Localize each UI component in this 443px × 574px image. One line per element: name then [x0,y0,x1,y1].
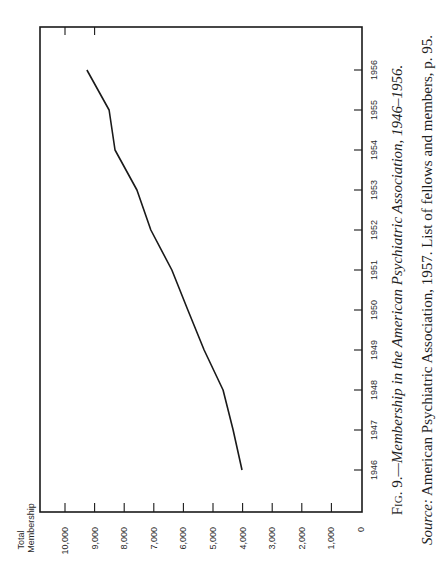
x-tick-label: 1949 [369,340,379,360]
y-tick-label: 1,000 [326,527,336,550]
figure-label: Fig. 9. [389,477,405,516]
membership-line-chart: Total Membership Fig. 9.—Membership in t… [0,0,443,574]
x-tick-label: 1947 [369,420,379,440]
x-tick-label: 1950 [369,300,379,320]
y-axis-ticks [65,27,331,512]
figure-title: —Membership in the American Psychiatric … [389,65,405,478]
plot-frame [40,27,362,512]
y-tick-label: 8,000 [119,527,129,550]
x-tick-label: 1951 [369,260,379,280]
y-tick-label: 10,000 [60,527,70,555]
membership-line [87,70,242,470]
x-tick-label: 1952 [369,220,379,240]
source-text: American Psychiatric Association, 1957. … [419,35,435,499]
y-tick-label: 6,000 [178,527,188,550]
x-axis-ticks [354,70,362,470]
x-tick-label: 1953 [369,180,379,200]
y-tick-label: 5,000 [208,527,218,550]
x-tick-label: 1954 [369,140,379,160]
y-tick-label: 3,000 [267,527,277,550]
y-tick-label: 2,000 [297,527,307,550]
x-tick-label: 1948 [369,380,379,400]
y-tick-label: 0 [356,527,366,532]
y-tick-label: 7,000 [149,527,159,550]
y-axis-title-line2: Membership [26,503,36,553]
y-tick-label: 4,000 [238,527,248,550]
y-axis-title-line1: Total [16,530,26,549]
source-label: Source: [419,499,435,545]
figure-source: Source: American Psychiatric Association… [419,35,435,545]
figure-caption: Fig. 9.—Membership in the American Psych… [389,65,405,516]
x-tick-label: 1956 [369,60,379,80]
x-tick-label: 1955 [369,100,379,120]
x-tick-label: 1946 [369,460,379,480]
y-tick-label: 9,000 [90,527,100,550]
